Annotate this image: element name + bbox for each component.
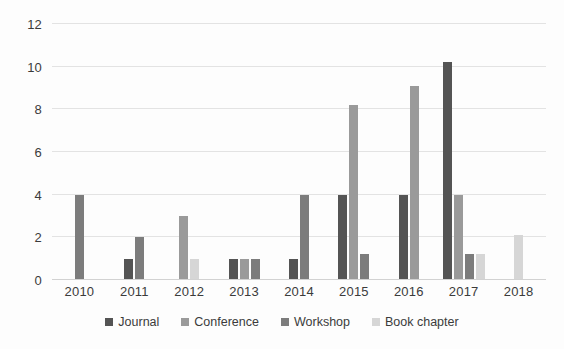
legend-swatch-icon — [181, 318, 189, 326]
x-axis-tick-label: 2012 — [162, 284, 217, 299]
bar — [190, 259, 199, 280]
bar-group — [52, 24, 107, 280]
legend-swatch-icon — [281, 318, 289, 326]
bar — [240, 259, 249, 280]
x-axis-tick-label: 2015 — [326, 284, 381, 299]
bar — [410, 86, 419, 280]
bar-group — [381, 24, 436, 280]
bar-group — [491, 24, 546, 280]
bar — [75, 195, 84, 280]
bar-groups — [52, 24, 546, 280]
bar — [251, 259, 260, 280]
bar — [179, 216, 188, 280]
x-axis-tick-label: 2018 — [491, 284, 546, 299]
legend-label: Conference — [194, 316, 259, 329]
y-axis-tick-label: 0 — [0, 273, 42, 288]
y-axis-tick-label: 6 — [0, 145, 42, 160]
chart-legend: JournalConferenceWorkshopBook chapter — [0, 316, 564, 329]
bar-group — [162, 24, 217, 280]
y-axis-tick-label: 2 — [0, 230, 42, 245]
bar — [289, 259, 298, 280]
bar — [124, 259, 133, 280]
bar — [300, 195, 309, 280]
x-axis-tick-label: 2017 — [436, 284, 491, 299]
bar — [454, 195, 463, 280]
x-axis-tick-label: 2010 — [52, 284, 107, 299]
y-axis-tick-label: 10 — [0, 59, 42, 74]
legend-swatch-icon — [372, 318, 380, 326]
plot-area — [52, 24, 546, 280]
legend-item-journal[interactable]: Journal — [105, 316, 159, 329]
bar — [349, 105, 358, 280]
y-axis-tick-label: 8 — [0, 102, 42, 117]
bar-group — [436, 24, 491, 280]
bar-group — [217, 24, 272, 280]
x-axis-tick-label: 2016 — [381, 284, 436, 299]
x-axis-tick-label: 2014 — [272, 284, 327, 299]
legend-label: Journal — [118, 316, 159, 329]
y-axis: 024681012 — [0, 24, 52, 280]
bar — [135, 237, 144, 280]
bar-group — [272, 24, 327, 280]
y-axis-tick-label: 12 — [0, 17, 42, 32]
legend-swatch-icon — [105, 318, 113, 326]
legend-label: Workshop — [294, 316, 350, 329]
x-axis-tick-label: 2011 — [107, 284, 162, 299]
legend-item-conference[interactable]: Conference — [181, 316, 259, 329]
legend-label: Book chapter — [385, 316, 459, 329]
y-axis-tick-label: 4 — [0, 187, 42, 202]
bar — [360, 254, 369, 280]
bar — [514, 235, 523, 280]
bar — [399, 195, 408, 280]
bar — [338, 195, 347, 280]
bar-chart: 024681012 201020112012201320142015201620… — [0, 0, 564, 349]
legend-item-book-chapter[interactable]: Book chapter — [372, 316, 459, 329]
x-axis-tick-label: 2013 — [217, 284, 272, 299]
bar — [476, 254, 485, 280]
x-axis-labels: 201020112012201320142015201620172018 — [52, 284, 546, 299]
bar — [465, 254, 474, 280]
bar-group — [107, 24, 162, 280]
bar — [229, 259, 238, 280]
x-axis-baseline — [52, 279, 546, 280]
legend-item-workshop[interactable]: Workshop — [281, 316, 350, 329]
bar — [443, 62, 452, 280]
bar-group — [326, 24, 381, 280]
